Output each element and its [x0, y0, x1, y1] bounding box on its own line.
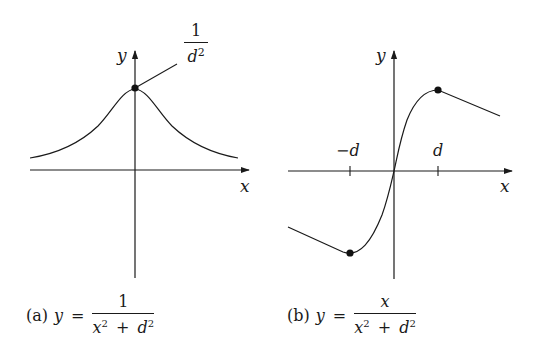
den-x: x: [92, 318, 101, 337]
panel-a-caption-prefix: (a): [26, 306, 48, 325]
panel-b-caption-fraction-bar: [354, 313, 416, 314]
annotation-denominator-exponent: 2: [198, 46, 205, 59]
panel-b-caption-fraction: x x2 + d2: [354, 293, 416, 337]
panel-b-caption-numerator: x: [380, 293, 389, 311]
panel-a-caption-fraction: 1 x2 + d2: [92, 293, 154, 337]
annotation-numerator: 1: [184, 22, 208, 40]
panel-a-annotation-fraction: 1 d2: [184, 22, 208, 66]
panel-b-tick-neg-d-label: −d: [336, 141, 360, 160]
panel-a-caption-lhs: y: [54, 306, 63, 325]
panel-a-annotation-leader: [135, 64, 177, 88]
panel-a-caption-numerator: 1: [118, 293, 128, 311]
den-d: d: [399, 318, 409, 337]
panel-b-caption-equals: =: [333, 306, 346, 325]
panel-a-x-axis-label: x: [240, 176, 250, 196]
den-plus: +: [116, 318, 129, 337]
panel-b-maximum-point: [434, 86, 441, 93]
den-exp-2: 2: [148, 318, 154, 329]
den-d: d: [137, 318, 147, 337]
annotation-denominator-base: d: [187, 47, 197, 66]
annotation-denominator: d2: [184, 44, 208, 66]
panel-a: [30, 51, 249, 278]
panel-b-minimum-point: [346, 249, 353, 256]
panel-a-peak-point: [131, 84, 138, 91]
panel-b-caption-denominator: x2 + d2: [354, 315, 416, 337]
den-exp-1: 2: [102, 318, 108, 329]
den-exp-2: 2: [409, 318, 415, 329]
panel-b-x-axis-label: x: [500, 176, 510, 196]
panel-a-caption-equals: =: [71, 306, 84, 325]
panel-a-y-axis-label: y: [117, 45, 127, 65]
panel-a-caption-fraction-bar: [92, 313, 154, 314]
annotation-fraction-bar: [184, 42, 208, 43]
panel-b: [288, 51, 512, 279]
panel-b-tick-pos-d-label: d: [433, 141, 443, 160]
den-x: x: [354, 318, 363, 337]
panel-a-caption-denominator: x2 + d2: [92, 315, 154, 337]
panel-b-caption-lhs: y: [316, 306, 325, 325]
panel-b-caption-prefix: (b): [287, 306, 310, 325]
panel-b-caption: (b) y = x x2 + d2: [287, 290, 416, 340]
panel-b-y-axis-label: y: [376, 45, 386, 65]
panel-a-curve: [30, 89, 238, 158]
den-exp-1: 2: [363, 318, 369, 329]
den-plus: +: [378, 318, 391, 337]
panel-a-caption: (a) y = 1 x2 + d2: [26, 290, 154, 340]
